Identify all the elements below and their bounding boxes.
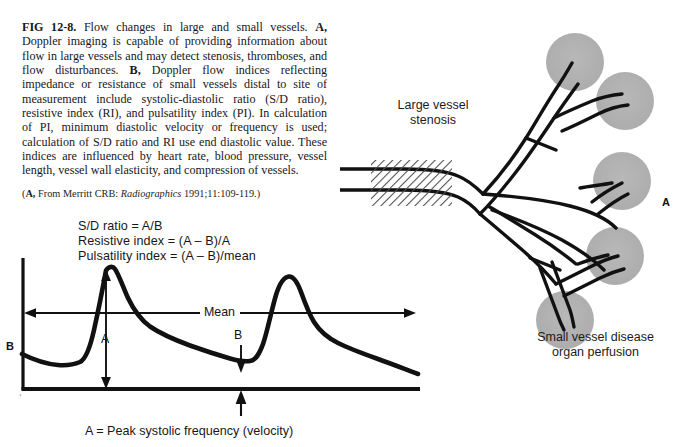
stenosis-hatch-box xyxy=(371,160,452,206)
stenosis-label-line1: Large vessel xyxy=(398,98,469,112)
source-attribution: From Merritt CRB: xyxy=(35,188,120,199)
source-volume-pages: 1991;11:109-119.) xyxy=(181,188,260,199)
panel-b-marker: B, xyxy=(130,63,141,77)
formula-resistive-index: Resistive index = (A – B)/A xyxy=(78,234,230,248)
panel-b-bottom-caption: A = Peak systolic frequency (velocity) xyxy=(85,424,293,438)
organ-circle-3 xyxy=(593,152,651,210)
organ-circle-2 xyxy=(596,72,654,130)
source-journal-name: Radiographics xyxy=(121,188,182,199)
figure-caption: FIG 12-8. Flow changes in large and smal… xyxy=(22,20,327,178)
figure-container: FIG 12-8. Flow changes in large and smal… xyxy=(0,0,687,447)
source-panel-marker: A, xyxy=(25,188,35,199)
figure-source-citation: (A, From Merritt CRB: Radiographics 1991… xyxy=(22,188,334,200)
anatomy-svg xyxy=(340,0,687,447)
marker-a-label: A xyxy=(101,332,109,346)
formula-sd-ratio: S/D ratio = A/B xyxy=(78,219,162,233)
organ-circle-1 xyxy=(546,33,604,91)
stray-ink-mark: ˋ xyxy=(19,393,22,403)
marker-b-label: B xyxy=(234,328,242,342)
stenosis-label-line2: stenosis xyxy=(410,113,456,127)
large-vessel-stenosis-label: Large vessel stenosis xyxy=(368,98,498,127)
perfusion-label-line2: organ perfusion xyxy=(552,345,639,359)
panel-a-vascular-diagram: Large vessel stenosis Small vessel disea… xyxy=(340,0,687,447)
panel-a-label: A xyxy=(662,196,670,208)
baseline-up-arrow xyxy=(236,390,247,416)
panel-a-marker: A, xyxy=(315,20,327,34)
mean-flow-label: Mean xyxy=(200,305,239,319)
figure-number: FIG 12-8. xyxy=(22,20,76,34)
caption-intro: Flow changes in large and small vessels. xyxy=(76,20,315,34)
small-vessel-perfusion-label: Small vessel disease organ perfusion xyxy=(508,330,683,359)
caption-panel-b-text: Doppler flow indices reflecting impedanc… xyxy=(22,63,327,177)
perfusion-label-line1: Small vessel disease xyxy=(537,330,654,344)
